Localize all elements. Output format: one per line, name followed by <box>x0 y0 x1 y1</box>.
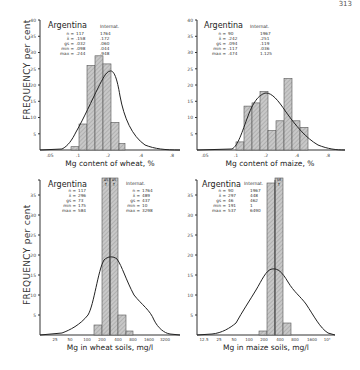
svg-text:35: 35 <box>187 34 193 39</box>
svg-text:10: 10 <box>187 115 193 120</box>
svg-text:5: 5 <box>190 313 193 318</box>
svg-text:1600: 1600 <box>307 337 318 342</box>
svg-text:200: 200 <box>260 337 268 342</box>
svg-text:12.5: 12.5 <box>200 337 209 342</box>
svg-text:800: 800 <box>129 337 137 342</box>
svg-text:max =: max = <box>60 51 74 56</box>
svg-text:3200: 3200 <box>160 337 171 342</box>
svg-text:5: 5 <box>190 132 193 137</box>
svg-text:50: 50 <box>67 337 73 342</box>
svg-text:max =: max = <box>62 208 76 213</box>
svg-text:.05: .05 <box>46 153 53 158</box>
svg-text:.4: .4 <box>295 153 299 158</box>
chart-wheat-content: 5 10 15 20 25 30 35 40 .05 .1 .2 .4 .8 M… <box>30 18 180 168</box>
svg-text:58: 58 <box>277 178 281 182</box>
svg-text:↑: ↑ <box>277 182 281 187</box>
svg-text:100: 100 <box>245 337 253 342</box>
x-axis-label: Mg content of maize, % <box>226 159 315 168</box>
internat-label: Internat. <box>250 24 269 29</box>
x-axis-label: Mg in maize soils, mg/l <box>223 343 309 352</box>
svg-text:max =: max = <box>126 208 140 213</box>
stats-table: n =1171764 x̄ =.158.172 gs =.032.060 min… <box>60 31 111 56</box>
svg-text:.8: .8 <box>170 153 174 158</box>
chart-maize-soils: 5 10 15 20 25 30 35 ↑ 58 12.5 25 50 100 … <box>187 178 335 352</box>
svg-text:25: 25 <box>187 233 193 238</box>
figure-canvas: 5 10 15 20 25 30 35 40 .05 .1 .2 .4 .8 M… <box>0 0 360 370</box>
y-axis-label-bottom: FREQUENCY per cent <box>22 204 32 305</box>
x-axis-label: Mg in wheat soils, mg/l <box>67 343 153 352</box>
svg-text:400: 400 <box>114 337 122 342</box>
svg-text:5: 5 <box>33 132 36 137</box>
svg-text:25: 25 <box>52 337 58 342</box>
chart-maize-content: 5 10 15 20 25 30 35 40 .05 .1 .2 .4 .8 M… <box>187 18 345 168</box>
svg-text:10: 10 <box>187 293 193 298</box>
svg-text:.8: .8 <box>326 153 330 158</box>
internat-label: Internat. <box>126 181 145 186</box>
svg-text:35: 35 <box>187 193 193 198</box>
svg-text:45: 45 <box>104 178 108 182</box>
svg-text:.4: .4 <box>139 153 143 158</box>
svg-text:45: 45 <box>112 178 116 182</box>
svg-text:.05: .05 <box>201 153 208 158</box>
svg-text:max =: max = <box>212 51 226 56</box>
svg-text:20: 20 <box>187 253 193 258</box>
internat-label: Internat. <box>244 181 263 186</box>
chart-title: Argentina <box>48 21 87 30</box>
x-axis-label: Mg content of wheat, % <box>65 159 154 168</box>
svg-text:400: 400 <box>276 337 284 342</box>
svg-text:.2: .2 <box>106 153 110 158</box>
chart-title: Argentina <box>204 21 243 30</box>
svg-text:↑: ↑ <box>112 182 116 187</box>
svg-text:100: 100 <box>83 337 91 342</box>
svg-text:25: 25 <box>216 337 222 342</box>
svg-text:1.125: 1.125 <box>260 51 272 56</box>
svg-text:.948: .948 <box>100 51 110 56</box>
svg-text:25: 25 <box>187 67 193 72</box>
svg-text:15: 15 <box>187 273 193 278</box>
y-axis-label-top: FREQUENCY per cent <box>22 19 32 120</box>
svg-text:.1: .1 <box>76 153 80 158</box>
svg-text:35: 35 <box>30 193 36 198</box>
svg-text:6490: 6490 <box>250 208 261 213</box>
svg-text:5: 5 <box>33 313 36 318</box>
svg-text:3298: 3298 <box>142 208 153 213</box>
chart-wheat-soils: 5 10 15 20 25 30 35 ↑ ↑ 45 45 25 50 100 … <box>30 178 180 352</box>
svg-text:30: 30 <box>187 50 193 55</box>
svg-text:.1: .1 <box>234 153 238 158</box>
svg-text:40: 40 <box>187 18 193 23</box>
internat-label: Internat. <box>100 24 119 29</box>
svg-text:.244: .244 <box>76 51 86 56</box>
svg-text:10⁴: 10⁴ <box>324 337 331 342</box>
svg-text:max =: max = <box>212 208 226 213</box>
svg-text:537: 537 <box>228 208 236 213</box>
svg-text:30: 30 <box>187 213 193 218</box>
svg-text:584: 584 <box>78 208 86 213</box>
x-ticks: .05 .1 .2 .4 .8 <box>46 153 174 158</box>
svg-text:800: 800 <box>291 337 299 342</box>
svg-text:.474: .474 <box>228 51 238 56</box>
svg-text:↑: ↑ <box>104 182 108 187</box>
svg-text:15: 15 <box>187 99 193 104</box>
svg-text:200: 200 <box>98 337 106 342</box>
svg-text:20: 20 <box>187 83 193 88</box>
svg-text:.2: .2 <box>264 153 268 158</box>
svg-text:50: 50 <box>231 337 237 342</box>
svg-text:1600: 1600 <box>144 337 155 342</box>
